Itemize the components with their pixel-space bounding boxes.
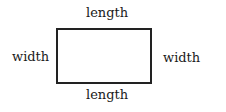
- rectangle-shape: [56, 28, 152, 84]
- rectangle-diagram: length length width width: [0, 0, 226, 112]
- label-bottom-length: length: [86, 87, 128, 102]
- label-right-width: width: [163, 50, 200, 65]
- label-top-length: length: [86, 5, 128, 20]
- label-left-width: width: [12, 49, 49, 64]
